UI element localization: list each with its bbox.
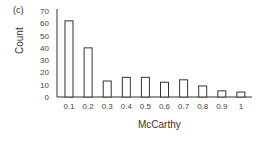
x-tick-label: 0.8 xyxy=(197,102,209,111)
x-tick-label: 0.6 xyxy=(159,102,171,111)
bar xyxy=(237,92,245,97)
x-tick-label: 0.7 xyxy=(178,102,190,111)
y-tick-label: 50 xyxy=(40,32,49,41)
x-tick-label: 0.9 xyxy=(216,102,228,111)
bar xyxy=(180,80,188,97)
x-tick-label: 0.4 xyxy=(121,102,133,111)
y-tick-label: 20 xyxy=(40,68,49,77)
bar-chart: 0102030405060700.10.20.30.40.50.60.70.80… xyxy=(0,0,258,142)
bar xyxy=(161,82,169,97)
x-tick-label: 0.5 xyxy=(140,102,152,111)
y-tick-label: 70 xyxy=(40,7,49,16)
x-tick-label: 1 xyxy=(239,102,244,111)
bar xyxy=(199,86,207,97)
x-tick-label: 0.1 xyxy=(63,102,75,111)
bar xyxy=(218,91,226,97)
y-tick-label: 0 xyxy=(45,93,50,102)
x-tick-label: 0.3 xyxy=(102,102,114,111)
bar xyxy=(122,77,130,97)
x-tick-label: 0.2 xyxy=(83,102,95,111)
y-tick-label: 10 xyxy=(40,81,49,90)
bar xyxy=(141,77,149,97)
bar xyxy=(65,21,73,97)
y-tick-label: 40 xyxy=(40,44,49,53)
y-tick-label: 60 xyxy=(40,19,49,28)
bar xyxy=(103,81,111,97)
y-tick-label: 30 xyxy=(40,56,49,65)
bar xyxy=(84,48,92,97)
